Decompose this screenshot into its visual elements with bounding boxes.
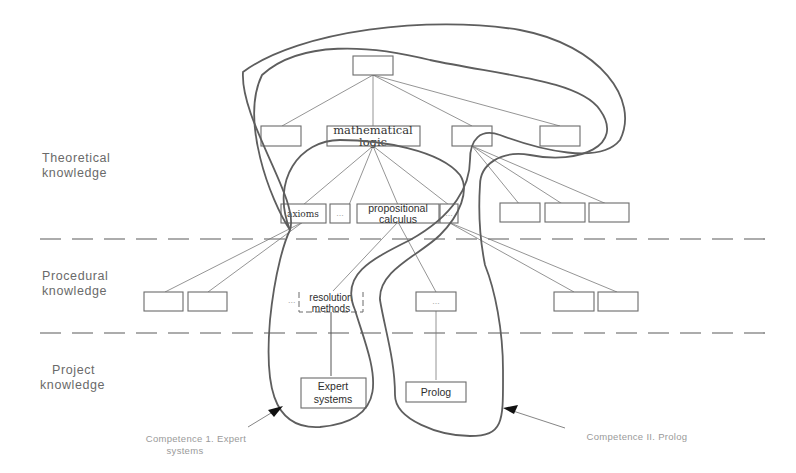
- node-propositional-calculus: propositional calculus: [357, 202, 439, 225]
- svg-text:knowledge: knowledge: [42, 166, 107, 180]
- node-theoretical-right-1: [500, 203, 540, 222]
- node-theoretical-4: [540, 126, 580, 146]
- svg-text:Theoretical: Theoretical: [42, 151, 110, 165]
- svg-text:knowledge: knowledge: [42, 284, 107, 298]
- node-procedural-right-1: [554, 292, 594, 311]
- level-label-theoretical: Theoretical knowledge: [42, 151, 110, 180]
- region-competence-1: [243, 24, 625, 427]
- arrow-competence-2: [503, 405, 565, 428]
- node-expert-systems: Expert systems: [301, 378, 366, 408]
- edges-third-node: [472, 146, 609, 205]
- edges-axioms: [165, 222, 303, 292]
- svg-text:axioms: axioms: [287, 209, 319, 219]
- node-theoretical-3: [452, 126, 492, 146]
- edges-root: [282, 75, 560, 126]
- node-ellipsis-1: ...: [330, 204, 350, 223]
- caption-competence-1: Competence 1. Expert systems: [146, 433, 247, 456]
- svg-text:Procedural: Procedural: [42, 269, 108, 283]
- svg-text:knowledge: knowledge: [40, 378, 105, 392]
- svg-text:resolution: resolution: [309, 292, 352, 303]
- svg-text:Competence 1. Expert: Competence 1. Expert: [146, 433, 247, 444]
- node-prolog: Prolog: [406, 382, 466, 402]
- node-procedural-right-2: [598, 292, 638, 311]
- svg-text:Competence II. Prolog: Competence II. Prolog: [587, 431, 688, 442]
- node-ellipsis-procedural: ...: [416, 292, 456, 311]
- level-label-project: Project knowledge: [40, 363, 105, 392]
- edges-ellipsis-right: [448, 222, 617, 292]
- svg-text:methods: methods: [312, 303, 350, 314]
- svg-text:...: ...: [432, 296, 440, 306]
- ellipsis-before-resolution: ...: [288, 295, 296, 305]
- node-theoretical-right-3: [589, 203, 629, 222]
- competence-diagram: Theoretical knowledge Procedural knowled…: [0, 0, 796, 473]
- svg-text:calculus: calculus: [379, 213, 417, 225]
- caption-competence-2: Competence II. Prolog: [587, 431, 688, 442]
- node-procedural-1: [144, 292, 183, 311]
- level-label-procedural: Procedural knowledge: [42, 269, 108, 298]
- node-theoretical-right-2: [545, 203, 585, 222]
- node-axioms: axioms: [281, 204, 326, 223]
- node-root: [353, 56, 393, 75]
- svg-text:Expert: Expert: [318, 380, 348, 392]
- node-mathematical-logic: mathematical logic: [327, 123, 420, 149]
- svg-text:Prolog: Prolog: [421, 386, 452, 398]
- svg-text:Project: Project: [52, 363, 95, 377]
- svg-text:systems: systems: [167, 445, 204, 456]
- svg-text:...: ...: [336, 208, 344, 218]
- node-theoretical-1: [261, 126, 301, 146]
- svg-text:systems: systems: [314, 393, 353, 405]
- arrow-competence-1: [248, 406, 283, 427]
- node-ellipsis-2: ...: [440, 204, 458, 223]
- node-procedural-2: [188, 292, 227, 311]
